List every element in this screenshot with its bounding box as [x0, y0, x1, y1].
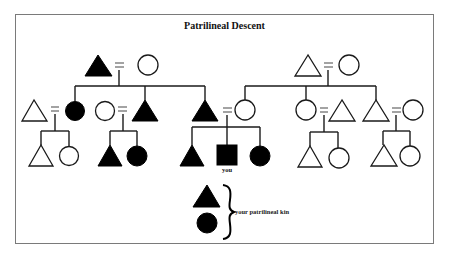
- maternal-grandparents: [245, 55, 376, 100]
- wife-open-circle-icon: [403, 100, 423, 120]
- legend-filled-triangle-icon: [193, 185, 220, 207]
- husband-open-triangle-icon: [329, 100, 355, 121]
- mother-open-circle-icon: [235, 100, 255, 120]
- wife-filled-circle-icon: [66, 102, 85, 121]
- daughter-open-circle-icon: [60, 147, 79, 166]
- daughter-open-circle-icon: [329, 148, 349, 168]
- family-2: [96, 100, 159, 166]
- grandmother-open-circle-icon: [339, 55, 359, 75]
- family-5: [363, 100, 423, 166]
- legend-filled-circle-icon: [197, 213, 217, 233]
- kinship-diagram: Patrilineal Descent: [0, 0, 449, 260]
- ego-label: you: [217, 166, 237, 173]
- paternal-grandparents: [75, 55, 205, 101]
- kinship-chart: [0, 0, 449, 260]
- son-open-triangle-icon: [298, 146, 322, 167]
- husband-open-triangle-icon: [22, 100, 47, 121]
- daughter-filled-circle-icon: [127, 146, 147, 166]
- husband-open-triangle-icon: [363, 100, 389, 121]
- daughter-open-circle-icon: [400, 146, 420, 166]
- wife-open-circle-icon: [296, 100, 316, 120]
- legend-label: your patrilineal kin: [235, 208, 289, 215]
- son-open-triangle-icon: [371, 145, 397, 166]
- family-1: [22, 100, 85, 166]
- legend-brace-icon: [223, 185, 234, 239]
- husband-filled-triangle-icon: [132, 100, 158, 121]
- brother-filled-triangle-icon: [180, 145, 204, 166]
- son-open-triangle-icon: [29, 145, 53, 166]
- ego-filled-square-icon: [217, 145, 237, 165]
- grandfather-filled-triangle-icon: [85, 55, 112, 76]
- grandfather-open-triangle-icon: [295, 55, 321, 76]
- father-filled-triangle-icon: [192, 100, 218, 121]
- sister-filled-circle-icon: [250, 146, 270, 166]
- wife-open-circle-icon: [96, 102, 115, 121]
- grandmother-open-circle-icon: [138, 55, 158, 75]
- family-ego: [180, 100, 270, 166]
- son-filled-triangle-icon: [98, 145, 122, 166]
- family-4: [296, 100, 355, 168]
- legend: [193, 185, 234, 239]
